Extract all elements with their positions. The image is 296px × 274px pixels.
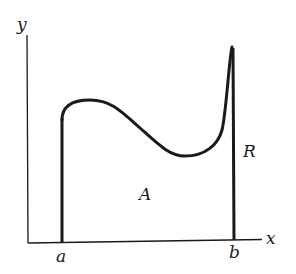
upper-bound-label: b — [229, 242, 240, 262]
x-axis-label: x — [266, 228, 276, 248]
right-bound-line — [233, 48, 234, 240]
lower-bound-label: a — [56, 246, 66, 266]
area-label: A — [137, 184, 151, 204]
region-label: R — [242, 141, 256, 161]
y-axis-label: y — [16, 14, 27, 34]
area-under-curve-diagram: y x a b A R — [0, 0, 296, 274]
function-curve — [62, 47, 232, 156]
y-axis — [27, 35, 28, 243]
